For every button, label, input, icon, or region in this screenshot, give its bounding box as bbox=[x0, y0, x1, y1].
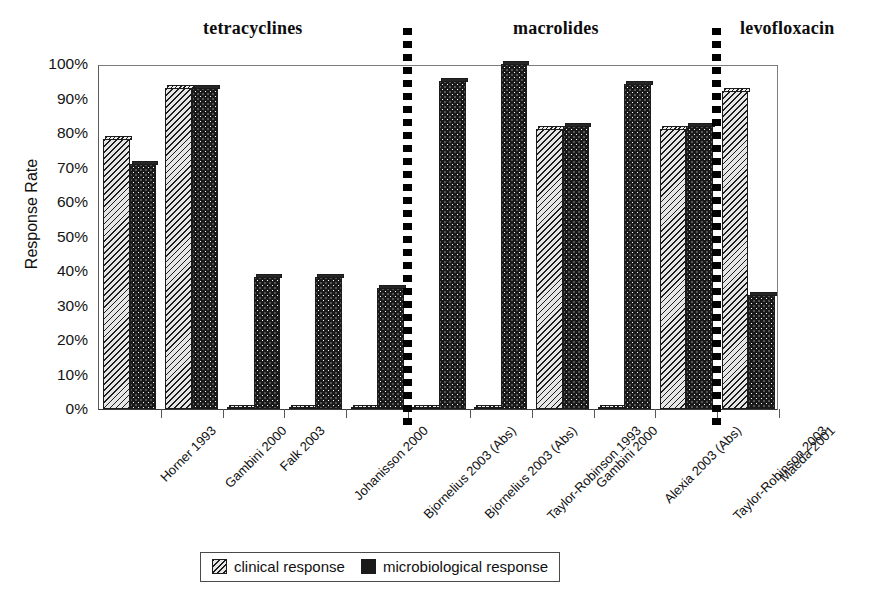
y-tick-label: 90% bbox=[57, 90, 88, 108]
x-tick-1 bbox=[223, 409, 224, 418]
x-tick-3 bbox=[346, 409, 347, 418]
legend-label-microbiological: microbiological response bbox=[383, 558, 548, 575]
y-tick-label: 0% bbox=[66, 400, 88, 418]
bar-face bbox=[563, 126, 590, 409]
bar-clin-0 bbox=[103, 136, 130, 409]
bar-face bbox=[748, 295, 775, 409]
legend-swatch-microbiological-icon bbox=[361, 559, 376, 574]
bar-face bbox=[227, 407, 254, 409]
group-title-levofloxacin: levofloxacin bbox=[740, 18, 834, 39]
bar-face bbox=[501, 64, 528, 409]
legend-swatch-clinical-icon bbox=[212, 559, 227, 574]
legend-item-microbiological: microbiological response bbox=[361, 558, 548, 575]
bar-face bbox=[722, 91, 749, 409]
group-title-macrolides: macrolides bbox=[513, 18, 599, 39]
bar-clin-10 bbox=[722, 88, 749, 409]
bar-face bbox=[289, 407, 316, 409]
bar-face bbox=[660, 129, 687, 409]
bar-clin-8 bbox=[598, 405, 625, 409]
bar-micro-4 bbox=[377, 285, 404, 409]
bar-face bbox=[624, 84, 651, 409]
y-tick-label: 60% bbox=[57, 193, 88, 211]
legend-item-clinical: clinical response bbox=[212, 558, 345, 575]
x-tick-6 bbox=[532, 409, 533, 418]
bar-clin-6 bbox=[474, 405, 501, 409]
y-tick-label: 40% bbox=[57, 262, 88, 280]
bar-micro-5 bbox=[439, 78, 466, 409]
x-tick-2 bbox=[284, 409, 285, 418]
x-tick-10 bbox=[779, 409, 780, 418]
y-tick-label: 80% bbox=[57, 124, 88, 142]
y-tick-label: 30% bbox=[57, 297, 88, 315]
bar-clin-2 bbox=[227, 405, 254, 409]
y-tick-label: 10% bbox=[57, 366, 88, 384]
x-label-3: Johanisson 2000 bbox=[351, 423, 431, 503]
bar-micro-2 bbox=[254, 274, 281, 409]
divider-tetracyclines-macrolides bbox=[403, 28, 412, 430]
bar-face bbox=[130, 164, 157, 409]
bar-face bbox=[192, 88, 219, 409]
bar-face bbox=[536, 129, 563, 409]
bar-face bbox=[103, 139, 130, 409]
bar-face bbox=[377, 288, 404, 409]
y-tick-label: 50% bbox=[57, 228, 88, 246]
bar-face bbox=[439, 81, 466, 409]
bar-clin-3 bbox=[289, 405, 316, 409]
bar-clin-4 bbox=[351, 405, 378, 409]
x-label-10: Maeda 2001 bbox=[776, 423, 838, 485]
chart-figure: tetracyclines macrolides levofloxacin Re… bbox=[0, 0, 881, 597]
chart-legend: clinical response microbiological respon… bbox=[200, 552, 560, 582]
y-tick-label: 100% bbox=[48, 55, 88, 73]
x-tick-0 bbox=[161, 409, 162, 418]
x-tick-8 bbox=[655, 409, 656, 418]
bar-face bbox=[315, 277, 342, 409]
bar-face bbox=[598, 407, 625, 409]
y-tick-label: 20% bbox=[57, 331, 88, 349]
legend-label-clinical: clinical response bbox=[234, 558, 345, 575]
bar-micro-7 bbox=[563, 123, 590, 409]
bar-face bbox=[165, 88, 192, 409]
x-tick-5 bbox=[470, 409, 471, 418]
bar-clin-1 bbox=[165, 85, 192, 409]
group-title-tetracyclines: tetracyclines bbox=[203, 18, 303, 39]
x-tick-7 bbox=[594, 409, 595, 418]
x-label-1: Gambini 2000 bbox=[222, 423, 290, 491]
bar-face bbox=[474, 407, 501, 409]
bar-clin-7 bbox=[536, 126, 563, 409]
bar-clin-9 bbox=[660, 126, 687, 409]
divider-macrolides-levofloxacin bbox=[712, 28, 721, 430]
bar-micro-9 bbox=[686, 123, 713, 409]
y-axis-title: Response Rate bbox=[23, 124, 41, 304]
bar-face bbox=[351, 407, 378, 409]
x-label-8: Alexia 2003 (Abs) bbox=[661, 423, 744, 506]
bar-micro-6 bbox=[501, 61, 528, 409]
plot-area: 0%10%20%30%40%50%60%70%80%90%100% bbox=[98, 65, 778, 410]
bar-face bbox=[254, 277, 281, 409]
bar-micro-1 bbox=[192, 85, 219, 409]
bar-micro-3 bbox=[315, 274, 342, 409]
x-label-0: Horner 1993 bbox=[157, 423, 219, 485]
bar-face bbox=[686, 126, 713, 409]
bar-face bbox=[412, 407, 439, 409]
bar-micro-8 bbox=[624, 81, 651, 409]
bar-micro-0 bbox=[130, 161, 157, 409]
bar-clin-5 bbox=[412, 405, 439, 409]
bar-micro-10 bbox=[748, 292, 775, 409]
y-tick-label: 70% bbox=[57, 159, 88, 177]
